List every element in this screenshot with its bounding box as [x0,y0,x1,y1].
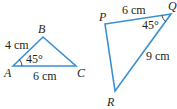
angle-a-label: 45° [26,52,43,66]
vertex-a-label: A [3,66,12,80]
side-ac-label: 6 cm [33,69,57,83]
angle-a-arc [19,60,22,66]
side-ab-label: 4 cm [5,38,29,52]
vertex-c-label: C [77,66,86,80]
triangles-diagram: A B C 4 cm 6 cm 45° P Q R 6 cm 9 cm 45° [0,0,177,109]
side-pq-label: 6 cm [122,3,146,17]
vertex-b-label: B [38,22,46,36]
vertex-r-label: R [106,95,115,109]
vertex-q-label: Q [168,0,177,13]
angle-q-label: 45° [142,18,159,32]
side-qr-label: 9 cm [146,49,170,63]
vertex-p-label: P [98,10,107,24]
angle-q-arc [162,15,166,21]
